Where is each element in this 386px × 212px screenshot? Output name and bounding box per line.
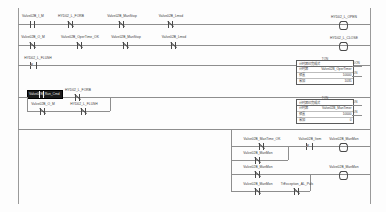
rung-5-contact-1-label: Valve02B_ManTime_OK [244, 137, 281, 141]
ladder-diagram-canvas[interactable]: Valve02B_I_M HYD02_L_FORB Valve02B_ManSt… [0, 0, 386, 212]
fb-timer-1-row-1-name: 计时器 [299, 67, 308, 71]
rung-2-contact-1-label: Valve02B_O_M [21, 35, 44, 39]
rung-4-branch-right [110, 97, 111, 111]
rung-5-branch-contact-1[interactable] [252, 157, 263, 164]
fb-timer-1-row-3-value: 1035 [344, 79, 351, 83]
rung-2-contact-3[interactable] [120, 42, 131, 49]
rung-6-contact-1-label: Valve02B_ManMon [243, 165, 272, 169]
rung-2-contact-2[interactable] [74, 42, 85, 49]
fb-timer-2-row-2-name: 预置 [299, 112, 305, 116]
rung-4-branch-contact-1-label: Valve02B_O_M [31, 102, 54, 106]
fb-timer-1-pin-0-wire [352, 66, 362, 67]
rung-separator-wire [18, 129, 370, 130]
fb-timer-2-row-1-value: Valve02B_ManTimer [322, 106, 351, 110]
rung-1-contact-1[interactable] [27, 21, 38, 28]
fb-timer-2-row-3-name: 累加 [299, 118, 305, 122]
rung-6-branch-contact-1-label: Valve02B_ManMon [243, 182, 272, 186]
rung-2-contact-4[interactable] [168, 42, 179, 49]
rung-2-contact-3-label: Valve02B_ManStop [111, 35, 141, 39]
rung-5-coil[interactable] [338, 143, 349, 150]
rung-5-branch-contact-1-label: Valve02B_ManMon [243, 151, 272, 155]
rung-6-coil[interactable] [338, 171, 349, 178]
rung-4-branch-contact-1[interactable] [37, 108, 48, 115]
fb-timer-2-pin-1-label: DN [353, 110, 357, 114]
fb-timer-1-row-3-name: 累加 [299, 79, 305, 83]
rung-5-contact-2-label: Valve02B_Item [299, 137, 322, 141]
rung-4-contact-1-label: HYD02_L_FORB [65, 88, 91, 92]
rung-2-contact-2-label: Valve02B_OperTime_OK [61, 35, 99, 39]
rung-2-wire [18, 45, 370, 46]
rung-5-contact-2[interactable]: P [304, 143, 315, 150]
rung-3-contact-1[interactable]: P [28, 62, 39, 69]
fb-timer-1-pin-1-wire [352, 76, 362, 77]
rung-6-branch-contact-2[interactable] [291, 188, 302, 195]
fb-timer-1-pin-1-label: DN [353, 71, 357, 75]
fb-timer-2-pin-0-wire [352, 105, 362, 106]
rung-1-contact-4-label: Valve02B_Lmsd [159, 14, 183, 18]
rung-6-coil-label: Valve02B_ManMon [329, 165, 358, 169]
rung-1-coil[interactable] [338, 21, 349, 28]
fb-timer-2-title: TON [297, 96, 353, 100]
rung-5-coil-label: Valve02B_ManMon [329, 137, 358, 141]
rung-6-branch-contact-2-label: TrException_AL_Puls [281, 182, 314, 186]
fb-timer-2-pin-1-wire [352, 115, 362, 116]
fb-timer-2-pin-0-label: DN [353, 100, 357, 104]
rung-4-contact-1[interactable] [72, 94, 83, 101]
rung-1-contact-4[interactable] [165, 21, 176, 28]
rung-6-contact-1[interactable] [252, 171, 263, 178]
rung-2-coil-label: HYD02_L_CLOSE [330, 36, 358, 40]
right-power-rail [370, 8, 371, 204]
function-block-timer-1[interactable]: TON 计时器已完成式 计时器 Valve02B_OperTimer 预置 10… [296, 60, 354, 85]
rung-2-contact-4-label: Valve02B_Lmsd [162, 35, 186, 39]
rung-4-selected-contact-label: Valve02B_Run_Cmd [29, 92, 60, 96]
rung-4-branch-contact-2-label: HYD02_L_FLUSH [70, 102, 98, 106]
fb-timer-2-row-3-value: 0 [350, 118, 352, 122]
fb-timer-2-row-2-value: 10000 [343, 112, 352, 116]
rung-5-branch-right [288, 146, 289, 160]
function-block-timer-2[interactable]: TON 计时器已完成式 计时器 Valve02B_ManTimer 预置 100… [296, 99, 354, 124]
rung-1-contact-3-label: Valve02B_ManStop [107, 14, 137, 18]
rung-4-selected-contact[interactable]: Valve02B_Run_Cmd [27, 90, 63, 99]
rung-2-coil[interactable] [338, 42, 349, 49]
fb-timer-1-row-2-value: 10000 [343, 73, 352, 77]
fb-timer-2-row-1-name: 计时器 [299, 106, 308, 110]
rung-3-contact-1-label: HYD02_L_FLUSH [24, 56, 52, 60]
fb-timer-1-pin-0-label: DON [353, 61, 360, 65]
rung-1-coil-label: HYD02_L_OPEN [331, 15, 357, 19]
rung-6-branch-contact-1[interactable] [252, 188, 263, 195]
fb-timer-1-row-2-name: 预置 [299, 73, 305, 77]
rung-5-contact-1[interactable] [256, 143, 267, 150]
rung-4-branch-contact-2[interactable] [78, 108, 89, 115]
fb-timer-2-row-0-name: 计时器已完成式 [299, 101, 320, 105]
fb-timer-1-title: TON [297, 57, 353, 61]
rung-1-contact-2[interactable] [65, 21, 76, 28]
rung-1-contact-3[interactable] [116, 21, 127, 28]
fb-timer-1-row-0-name: 计时器已完成式 [299, 62, 320, 66]
rung-2-contact-1[interactable] [27, 42, 38, 49]
fb-timer-1-row-1-value: Valve02B_OperTimer [321, 67, 351, 71]
rung-1-contact-1-label: Valve02B_I_M [22, 14, 44, 18]
rung-4-branch-left [27, 97, 28, 111]
rung-1-contact-2-label: HYD02_L_FORB [58, 14, 84, 18]
left-power-rail [18, 8, 19, 204]
